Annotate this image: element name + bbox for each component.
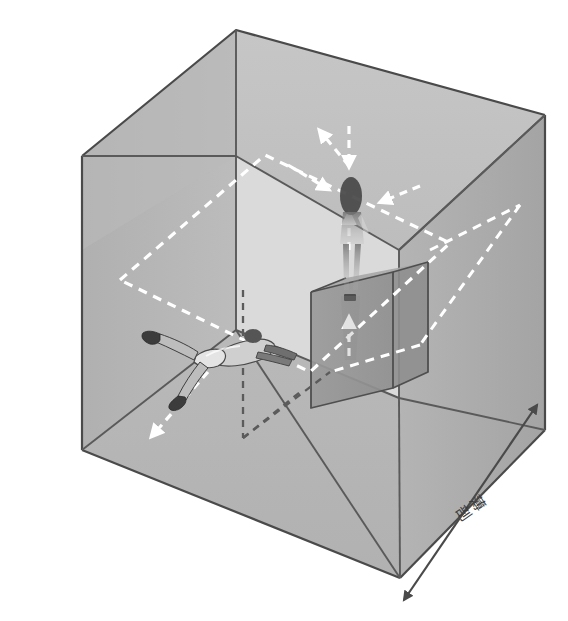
cube-scene-svg: 薄 剖 xyxy=(0,0,568,621)
diagram-canvas: 薄 剖 xyxy=(0,0,568,621)
floating-person-head xyxy=(244,329,262,343)
edge-corner-spur-bottom-right xyxy=(399,398,400,578)
standing-person-head xyxy=(340,177,362,215)
